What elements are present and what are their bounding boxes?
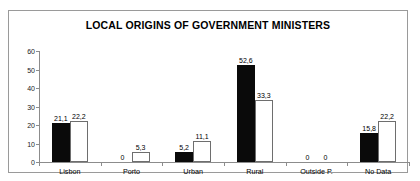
- chart-title: LOCAL ORIGINS OF GOVERNMENT MINISTERS: [9, 19, 407, 31]
- category-separator-tick: [39, 162, 40, 166]
- category-separator-tick: [162, 162, 163, 166]
- bar-value-label: 22,2: [372, 113, 402, 120]
- category-separator-tick: [286, 162, 287, 166]
- y-axis-tick-mark: [36, 51, 40, 52]
- y-axis-tick-mark: [36, 70, 40, 71]
- chart-frame: LOCAL ORIGINS OF GOVERNMENT MINISTERS 01…: [8, 10, 408, 173]
- bar-value-label: 33,3: [249, 92, 279, 99]
- y-axis-tick-label: 0: [13, 159, 35, 166]
- y-axis-tick-mark: [36, 125, 40, 126]
- category-separator-tick: [224, 162, 225, 166]
- x-axis-category-label: Outside P.: [286, 168, 348, 175]
- bar-value-label: 11,1: [187, 133, 217, 140]
- category-separator-tick: [409, 162, 410, 166]
- y-axis-tick-label: 10: [13, 141, 35, 148]
- bar: [132, 152, 150, 162]
- bar: [378, 121, 396, 162]
- bar-value-label: 22,2: [64, 113, 94, 120]
- y-axis-tick-label: 30: [13, 104, 35, 111]
- x-axis-category-label: Lisbon: [39, 168, 101, 175]
- x-axis-category-label: No Data: [347, 168, 409, 175]
- x-axis-category-label: Urban: [162, 168, 224, 175]
- y-axis-tick-mark: [36, 107, 40, 108]
- bar: [175, 152, 193, 162]
- bar: [237, 65, 255, 162]
- bar: [52, 123, 70, 162]
- category-separator-tick: [347, 162, 348, 166]
- bar-value-label: 0: [311, 154, 341, 161]
- x-axis-category-label: Rural: [224, 168, 286, 175]
- bar-value-label: 52,6: [231, 57, 261, 64]
- y-axis-tick-label: 40: [13, 85, 35, 92]
- bar: [255, 100, 273, 162]
- bar: [70, 121, 88, 162]
- y-axis-tick-label: 60: [13, 48, 35, 55]
- x-axis-category-label: Porto: [101, 168, 163, 175]
- bar-value-label: 5,3: [126, 144, 156, 151]
- y-axis-tick-mark: [36, 88, 40, 89]
- y-axis-tick-label: 20: [13, 122, 35, 129]
- y-axis-tick-label: 50: [13, 67, 35, 74]
- plot-area: 0102030405060 LisbonPortoUrbanRuralOutsi…: [39, 51, 409, 163]
- bar: [193, 141, 211, 162]
- category-separator-tick: [101, 162, 102, 166]
- y-axis-tick-mark: [36, 144, 40, 145]
- bar: [360, 133, 378, 162]
